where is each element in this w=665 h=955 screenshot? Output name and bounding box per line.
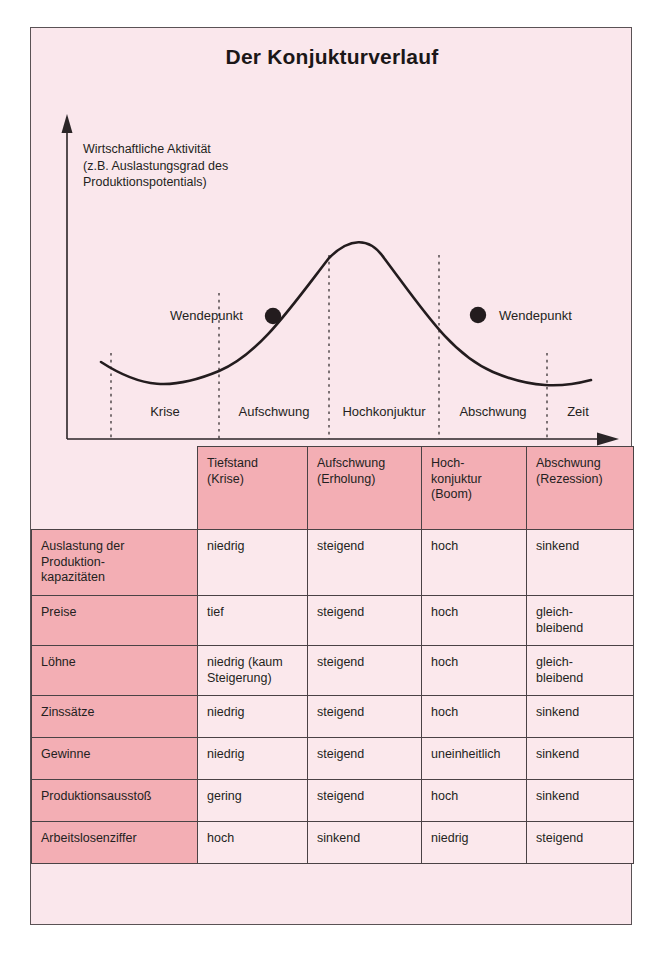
- business-cycle-chart: Wirtschaftliche Aktivität (z.B. Auslastu…: [31, 88, 633, 448]
- column-header-hochkonjuktur: Hoch- konjuktur (Boom): [422, 447, 527, 530]
- table-row: Auslastung der Produktion- kapazitäten n…: [32, 530, 634, 596]
- table-row: Gewinne niedrig steigend uneinheitlich s…: [32, 738, 634, 780]
- table-row: Arbeitslosenziffer hoch sinkend niedrig …: [32, 822, 634, 864]
- cell-loehne-tiefstand: niedrig (kaum Steigerung): [198, 646, 308, 696]
- cell-preise-hochkonjuktur: hoch: [422, 596, 527, 646]
- diagram-panel: Der Konjukturverlauf: [30, 27, 632, 925]
- cell-loehne-aufschwung: steigend: [308, 646, 422, 696]
- cell-loehne-hochkonjuktur: hoch: [422, 646, 527, 696]
- cell-zinssaetze-abschwung: sinkend: [527, 696, 634, 738]
- cell-zinssaetze-aufschwung: steigend: [308, 696, 422, 738]
- row-label-preise: Preise: [32, 596, 198, 646]
- row-label-produktionsausstoss: Produktionsausstoß: [32, 780, 198, 822]
- table-corner-cell: [32, 447, 198, 530]
- cell-loehne-abschwung: gleich- bleibend: [527, 646, 634, 696]
- cell-auslastung-hochkonjuktur: hoch: [422, 530, 527, 596]
- phase-label-abschwung: Abschwung: [439, 404, 547, 419]
- wendepunkt-label-left: Wendepunkt: [170, 308, 243, 323]
- cell-produktionsausstoss-abschwung: sinkend: [527, 780, 634, 822]
- cell-produktionsausstoss-hochkonjuktur: hoch: [422, 780, 527, 822]
- cell-zinssaetze-tiefstand: niedrig: [198, 696, 308, 738]
- wendepunkt-marker-right: [470, 307, 486, 323]
- cell-arbeitslosenziffer-tiefstand: hoch: [198, 822, 308, 864]
- y-axis-label: Wirtschaftliche Aktivität (z.B. Auslastu…: [83, 141, 228, 191]
- row-label-zinssaetze: Zinssätze: [32, 696, 198, 738]
- column-header-aufschwung: Aufschwung (Erholung): [308, 447, 422, 530]
- wendepunkt-label-right: Wendepunkt: [499, 308, 572, 323]
- cell-preise-aufschwung: steigend: [308, 596, 422, 646]
- page-title: Der Konjukturverlauf: [31, 45, 633, 69]
- row-label-loehne: Löhne: [32, 646, 198, 696]
- x-axis-label-zeit: Zeit: [547, 404, 609, 419]
- cell-produktionsausstoss-tiefstand: gering: [198, 780, 308, 822]
- cell-arbeitslosenziffer-aufschwung: sinkend: [308, 822, 422, 864]
- cell-preise-tiefstand: tief: [198, 596, 308, 646]
- row-label-arbeitslosenziffer: Arbeitslosenziffer: [32, 822, 198, 864]
- row-label-gewinne: Gewinne: [32, 738, 198, 780]
- cell-zinssaetze-hochkonjuktur: hoch: [422, 696, 527, 738]
- cell-gewinne-tiefstand: niedrig: [198, 738, 308, 780]
- wendepunkt-marker-left: [265, 308, 281, 324]
- row-label-auslastung: Auslastung der Produktion- kapazitäten: [32, 530, 198, 596]
- page-root: Der Konjukturverlauf: [0, 0, 665, 955]
- cell-auslastung-tiefstand: niedrig: [198, 530, 308, 596]
- column-header-tiefstand: Tiefstand (Krise): [198, 447, 308, 530]
- phase-label-aufschwung: Aufschwung: [219, 404, 329, 419]
- cell-gewinne-hochkonjuktur: uneinheitlich: [422, 738, 527, 780]
- cell-arbeitslosenziffer-hochkonjuktur: niedrig: [422, 822, 527, 864]
- cell-auslastung-aufschwung: steigend: [308, 530, 422, 596]
- cell-gewinne-aufschwung: steigend: [308, 738, 422, 780]
- cell-auslastung-abschwung: sinkend: [527, 530, 634, 596]
- cell-produktionsausstoss-aufschwung: steigend: [308, 780, 422, 822]
- y-axis-arrowhead: [62, 114, 73, 133]
- table-row: Preise tief steigend hoch gleich- bleibe…: [32, 596, 634, 646]
- table-row: Löhne niedrig (kaum Steigerung) steigend…: [32, 646, 634, 696]
- column-header-abschwung: Abschwung (Rezession): [527, 447, 634, 530]
- phase-label-hochkonjuktur: Hochkonjuktur: [329, 404, 439, 419]
- x-axis-arrowhead: [597, 433, 619, 446]
- cell-arbeitslosenziffer-abschwung: steigend: [527, 822, 634, 864]
- phase-label-krise: Krise: [111, 404, 219, 419]
- table-row: Produktionsausstoß gering steigend hoch …: [32, 780, 634, 822]
- table-row: Zinssätze niedrig steigend hoch sinkend: [32, 696, 634, 738]
- cell-preise-abschwung: gleich- bleibend: [527, 596, 634, 646]
- table-header-row: Tiefstand (Krise) Aufschwung (Erholung) …: [32, 447, 634, 530]
- business-cycle-table: Tiefstand (Krise) Aufschwung (Erholung) …: [31, 446, 634, 864]
- cell-gewinne-abschwung: sinkend: [527, 738, 634, 780]
